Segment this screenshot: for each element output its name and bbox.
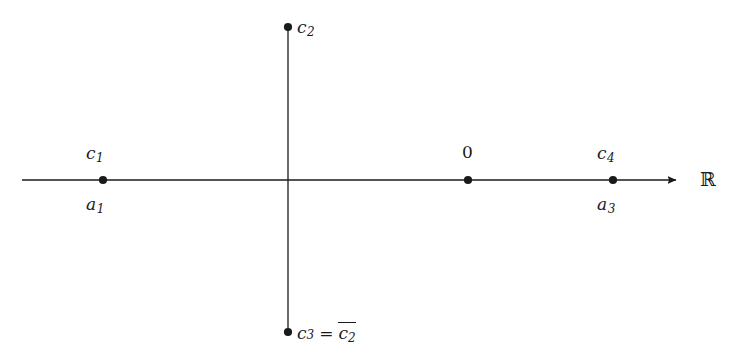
label-a1-subscript: 1 [97, 202, 105, 216]
complex-plane-diagram: c1 a1 c2 0 c4 a3 c3 = c2 ℝ [0, 0, 754, 356]
label-a3: a3 [597, 196, 615, 215]
label-c1-subscript: 1 [96, 151, 104, 165]
label-origin: 0 [462, 144, 473, 161]
point-c1-dot [99, 176, 107, 184]
overline-bar [338, 322, 356, 323]
conjugate-c2-subscript: 2 [348, 331, 356, 345]
point-origin-dot [464, 176, 472, 184]
label-c2-subscript: 2 [307, 25, 315, 39]
label-c1: c1 [86, 145, 104, 164]
diagram-canvas [0, 0, 754, 356]
point-c4-dot [609, 176, 617, 184]
label-a1: a1 [86, 196, 104, 215]
real-axis-symbol: ℝ [700, 170, 716, 189]
label-c4-base: c [597, 143, 607, 163]
real-axis-symbol-text: ℝ [700, 168, 716, 190]
label-c1-base: c [86, 143, 96, 163]
point-c3-dot [284, 328, 292, 336]
point-c2-dot [284, 23, 292, 31]
label-a3-subscript: 3 [608, 202, 616, 216]
equals-sign: = [319, 325, 333, 342]
label-c4-subscript: 4 [607, 151, 615, 165]
label-origin-text: 0 [462, 142, 473, 162]
label-a1-base: a [86, 194, 96, 214]
label-c3-equation: c3 = c2 [297, 324, 356, 344]
label-c4: c4 [597, 145, 615, 164]
conjugate-c2: c2 [338, 324, 355, 344]
label-c3-base: c [297, 325, 307, 342]
label-c3-subscript: 3 [307, 329, 315, 341]
label-c2-base: c [297, 17, 307, 37]
label-c2: c2 [297, 19, 315, 38]
label-a3-base: a [597, 194, 607, 214]
conjugate-c2-base: c [338, 323, 348, 343]
